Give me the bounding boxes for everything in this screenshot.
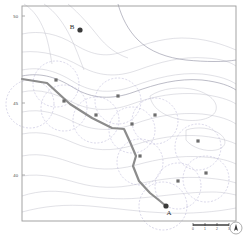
- endpoint-dot: [77, 27, 82, 32]
- scale-bar-tick-label: 0: [192, 227, 194, 231]
- waypoint-marker: [130, 122, 133, 125]
- endpoint-dot: [163, 203, 168, 208]
- endpoint-label: B: [70, 23, 75, 31]
- endpoint-label: A: [166, 209, 171, 217]
- waypoint-marker: [116, 94, 119, 97]
- north-arrow-icon: [230, 222, 242, 234]
- map-figure: BA 504540 0123: [0, 0, 245, 240]
- y-axis-tick-label: 40: [13, 173, 18, 178]
- waypoint-marker: [204, 171, 207, 174]
- canvas-background: [0, 0, 245, 240]
- waypoint-marker: [196, 139, 199, 142]
- waypoint-marker: [94, 113, 97, 116]
- y-axis-tick-label: 45: [13, 101, 18, 106]
- waypoint-marker: [153, 113, 156, 116]
- waypoint-marker: [62, 99, 65, 102]
- y-axis-tick-label: 50: [13, 14, 18, 19]
- map-canvas: BA 504540 0123: [0, 0, 245, 240]
- waypoint-marker: [54, 78, 57, 81]
- waypoint-marker: [176, 179, 179, 182]
- scale-bar-tick-label: 2: [216, 227, 218, 231]
- scale-bar-tick-label: 1: [204, 227, 206, 231]
- waypoint-marker: [138, 154, 141, 157]
